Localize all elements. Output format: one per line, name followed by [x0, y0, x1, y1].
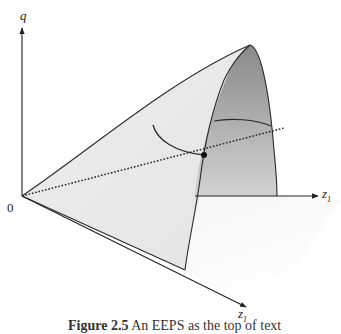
caption-label: Figure 2.5: [68, 318, 128, 333]
q-axis-label: q: [20, 8, 27, 24]
caption-text: An EEPS as the top of text: [131, 318, 281, 333]
right-axis-label: z1: [322, 186, 331, 204]
origin-label: 0: [7, 200, 14, 216]
intersection-point: [201, 152, 207, 158]
figure-caption: Figure 2.5 An EEPS as the top of text: [68, 318, 288, 334]
